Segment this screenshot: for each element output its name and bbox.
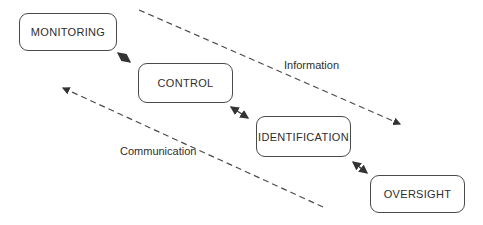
control-box: CONTROL [138, 63, 233, 103]
connector-identification-oversight-double-arrow [353, 162, 367, 173]
oversight-box: OVERSIGHT [370, 175, 465, 213]
connector-control-identification-double-arrow [231, 107, 248, 118]
oversight-box-label: OVERSIGHT [384, 188, 452, 200]
identification-box: IDENTIFICATION [256, 116, 351, 157]
diagram-canvas: MONITORING CONTROL IDENTIFICATION OVERSI… [0, 0, 483, 225]
monitoring-box-label: MONITORING [31, 26, 105, 38]
monitoring-box: MONITORING [19, 13, 117, 51]
communication-flow-label: Communication [120, 145, 196, 157]
connector-monitoring-control-double-arrow [118, 53, 130, 62]
identification-box-label: IDENTIFICATION [258, 131, 349, 143]
information-flow-label: Information [284, 59, 339, 71]
control-box-label: CONTROL [158, 77, 214, 89]
